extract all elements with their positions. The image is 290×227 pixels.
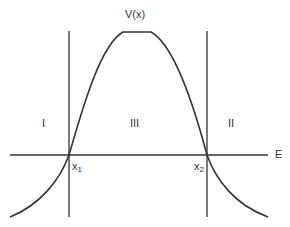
potential-label: V(x) [125, 8, 145, 20]
x2-label: x2 [194, 160, 204, 174]
region-I-label: I [42, 117, 45, 129]
energy-label: E [275, 148, 282, 160]
x1-label: x1 [72, 160, 82, 174]
region-II-label: II [228, 117, 234, 129]
potential-barrier-diagram [0, 0, 290, 227]
region-III-label: III [130, 117, 139, 129]
